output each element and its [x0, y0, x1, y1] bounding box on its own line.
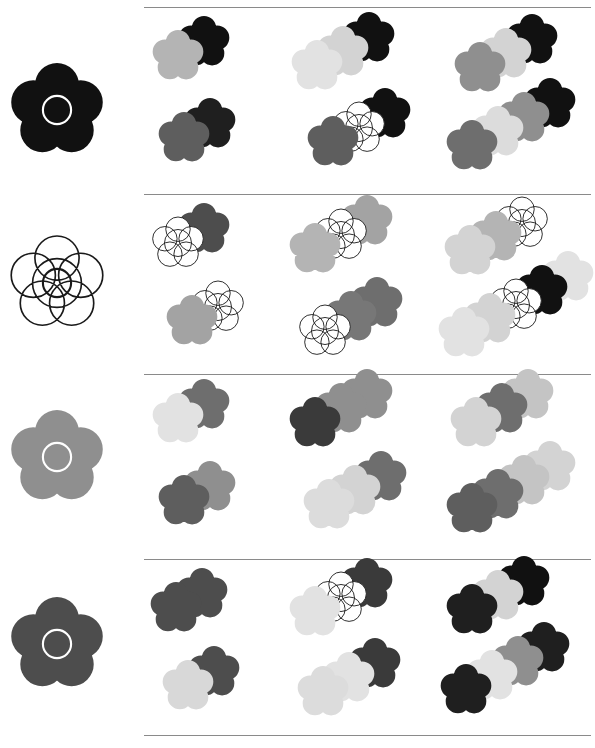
flower-petals	[290, 586, 341, 635]
cluster-flower-1	[149, 27, 207, 85]
cluster-flower-1	[441, 222, 499, 280]
cluster-flower-1	[443, 480, 501, 538]
cue-cell-2[interactable]	[0, 195, 144, 374]
flower-icon	[437, 661, 495, 719]
cluster-flower-1	[296, 302, 354, 360]
flower-petals	[153, 30, 204, 79]
panel-r4-c3[interactable]	[444, 560, 595, 735]
flower-petals	[153, 393, 204, 442]
flower-icon	[286, 220, 344, 278]
flower-petals	[290, 397, 341, 446]
cluster-flower-1	[155, 109, 213, 167]
panel-r2-c3[interactable]	[444, 195, 595, 374]
cluster-flower-1	[286, 220, 344, 278]
flower-petals	[163, 660, 214, 709]
cluster-flower-1	[304, 113, 362, 171]
cluster-flower-1	[159, 657, 217, 715]
flower-icon	[163, 292, 221, 350]
flower-icon	[286, 583, 344, 641]
flower-petals	[447, 584, 498, 633]
flower-icon	[149, 390, 207, 448]
cue-flower	[7, 60, 107, 160]
flower-icon	[443, 581, 501, 639]
flower-icon	[435, 304, 493, 362]
cue-flower-white-outline-icon	[7, 233, 107, 333]
flower-petals	[11, 236, 103, 325]
panel-r3-c1[interactable]	[144, 375, 289, 559]
cluster-flower-1	[149, 214, 207, 272]
cue-flower	[7, 233, 107, 333]
cue-cell-1[interactable]	[0, 8, 144, 194]
cluster-flower-1	[155, 472, 213, 530]
flower-petals	[308, 116, 359, 165]
cluster-flower-1	[147, 579, 205, 637]
cluster-flower-1	[163, 292, 221, 350]
panel-r2-c2[interactable]	[289, 195, 444, 374]
cluster-flower-1	[435, 304, 493, 362]
row-divider-5	[144, 735, 591, 736]
cluster-flower-1	[451, 39, 509, 97]
panel-r4-c1[interactable]	[144, 560, 289, 735]
panel-r3-c2[interactable]	[289, 375, 444, 559]
flower-icon	[155, 472, 213, 530]
stimulus-row-3	[0, 375, 595, 559]
flower-petals	[439, 307, 490, 356]
flower-icon	[294, 663, 352, 721]
cluster-flower-1	[294, 663, 352, 721]
flower-petals	[298, 666, 349, 715]
flower-icon	[304, 113, 362, 171]
flower-petals	[159, 112, 210, 161]
flower-icon	[149, 27, 207, 85]
panel-r1-c3[interactable]	[444, 8, 595, 194]
flower-petals	[11, 597, 103, 686]
flower-icon	[149, 214, 207, 272]
flower-icon	[441, 222, 499, 280]
cluster-flower-1	[286, 394, 344, 452]
panel-r3-c3[interactable]	[444, 375, 595, 559]
flower-petals	[159, 475, 210, 524]
flower-petals	[292, 40, 343, 89]
stimulus-row-4	[0, 560, 595, 735]
flower-petals	[300, 305, 351, 354]
cue-flower	[7, 594, 107, 694]
flower-petals	[11, 410, 103, 499]
stimulus-row-1	[0, 8, 595, 194]
flower-icon	[155, 109, 213, 167]
cue-flower-mid-gray-icon	[7, 407, 107, 507]
flower-petals	[11, 63, 103, 152]
flower-icon	[159, 657, 217, 715]
flower-icon	[288, 37, 346, 95]
flower-icon	[443, 117, 501, 175]
cluster-flower-1	[443, 117, 501, 175]
panel-r4-c2[interactable]	[289, 560, 444, 735]
cluster-flower-1	[288, 37, 346, 95]
flower-petals	[445, 225, 496, 274]
flower-petals	[447, 483, 498, 532]
panel-r1-c1[interactable]	[144, 8, 289, 194]
flower-icon	[147, 579, 205, 637]
flower-icon	[447, 394, 505, 452]
flower-icon	[300, 476, 358, 534]
panel-r1-c2[interactable]	[289, 8, 444, 194]
flower-petals	[151, 582, 202, 631]
cue-flower	[7, 407, 107, 507]
cue-flower-dark-gray-icon	[7, 594, 107, 694]
flower-petals	[167, 295, 218, 344]
cluster-flower-1	[443, 581, 501, 639]
cluster-flower-1	[300, 476, 358, 534]
flower-petals	[447, 120, 498, 169]
cue-cell-4[interactable]	[0, 560, 144, 735]
flower-petals	[304, 479, 355, 528]
cue-flower-black-icon	[7, 60, 107, 160]
flower-petals	[455, 42, 506, 91]
flower-icon	[443, 480, 501, 538]
panel-r2-c1[interactable]	[144, 195, 289, 374]
cluster-flower-1	[149, 390, 207, 448]
flower-icon	[451, 39, 509, 97]
flower-icon	[286, 394, 344, 452]
flower-petals	[451, 397, 502, 446]
cluster-flower-1	[437, 661, 495, 719]
cue-cell-3[interactable]	[0, 375, 144, 559]
cluster-flower-1	[286, 583, 344, 641]
flower-petals	[441, 664, 492, 713]
